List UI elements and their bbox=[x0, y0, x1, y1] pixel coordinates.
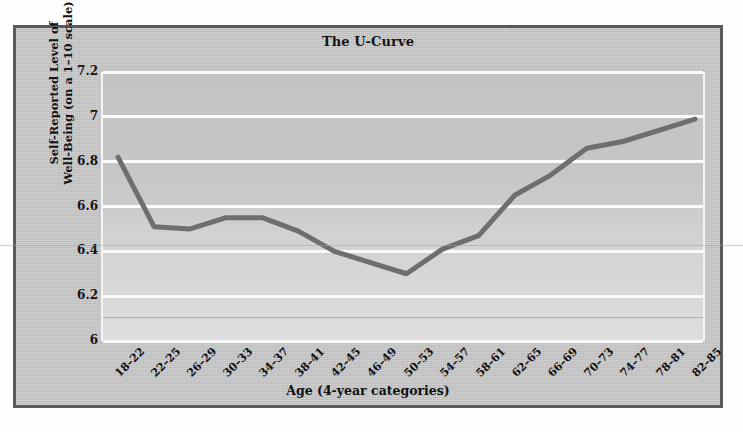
x-axis-title: Age (4-year categories) bbox=[16, 383, 720, 398]
series-polyline bbox=[118, 119, 695, 274]
well-being-line-series bbox=[103, 72, 707, 341]
y-axis-title-line-2: Well-Being (on a 1–10 scale) bbox=[61, 0, 75, 213]
figure-frame: The U-Curve 7.276.86.66.46.26 Self-Repor… bbox=[13, 25, 723, 408]
y-axis-tick-label: 6.4 bbox=[52, 243, 98, 257]
chart-page: The U-Curve 7.276.86.66.46.26 Self-Repor… bbox=[0, 0, 743, 432]
y-axis-title: Self-Reported Level ofWell-Being (on a 1… bbox=[47, 0, 77, 213]
y-axis-title-line-1: Self-Reported Level of bbox=[47, 0, 61, 213]
chart-title: The U-Curve bbox=[16, 34, 720, 49]
y-axis-tick-label: 6.2 bbox=[52, 288, 98, 302]
plot-area bbox=[101, 72, 705, 341]
y-axis-tick-label: 6 bbox=[52, 333, 98, 347]
